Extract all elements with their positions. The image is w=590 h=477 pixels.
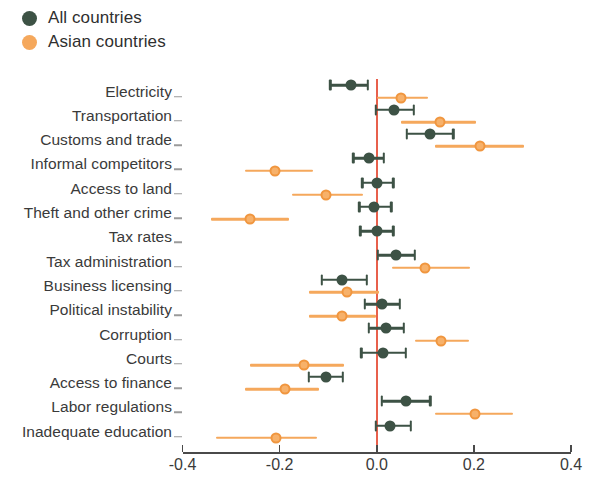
data-point-asian[interactable] xyxy=(270,432,281,443)
confidence-interval-cap xyxy=(366,274,368,285)
data-point-all[interactable] xyxy=(363,153,374,164)
category-label: Business licensing xyxy=(44,277,172,295)
category-tick xyxy=(174,314,182,316)
category-label: Corruption xyxy=(99,326,172,344)
data-point-all[interactable] xyxy=(385,420,396,431)
data-point-asian[interactable] xyxy=(298,360,309,371)
confidence-interval-cap xyxy=(412,104,414,115)
data-point-all[interactable] xyxy=(391,250,402,261)
category-tick xyxy=(174,193,182,195)
category-tick xyxy=(174,363,182,365)
category-tick xyxy=(174,290,182,292)
category-tick xyxy=(174,266,182,268)
x-axis-tick-label: -0.2 xyxy=(266,456,294,474)
data-point-all[interactable] xyxy=(336,274,347,285)
data-point-all[interactable] xyxy=(376,299,387,310)
category-tick xyxy=(174,339,182,341)
data-point-asian[interactable] xyxy=(336,311,347,322)
x-axis-tick xyxy=(182,445,184,452)
category-label: Electricity xyxy=(105,83,172,101)
confidence-interval-cap xyxy=(405,347,407,358)
category-tick xyxy=(174,169,182,171)
x-axis-tick-label: 0.2 xyxy=(463,456,485,474)
category-tick xyxy=(174,242,182,244)
plot-area: ElectricityTransportationCustoms and tra… xyxy=(0,0,590,477)
x-axis-tick-label: -0.4 xyxy=(169,456,197,474)
x-axis-tick xyxy=(279,445,281,452)
confidence-interval-cap xyxy=(342,371,344,382)
category-tick xyxy=(174,412,182,414)
category-label: Political instability xyxy=(49,301,172,319)
x-axis-tick xyxy=(376,445,378,452)
confidence-interval-cap xyxy=(390,201,392,212)
category-label: Inadequate education xyxy=(22,423,172,441)
category-label: Access to land xyxy=(70,180,172,198)
confidence-interval-bar xyxy=(216,437,318,440)
data-point-all[interactable] xyxy=(381,323,392,334)
category-label: Tax administration xyxy=(46,253,172,271)
data-point-all[interactable] xyxy=(378,347,389,358)
confidence-interval-cap xyxy=(413,250,415,261)
zero-reference-line xyxy=(376,79,378,452)
category-tick xyxy=(174,387,182,389)
category-label: Informal competitors xyxy=(31,155,172,173)
data-point-asian[interactable] xyxy=(321,189,332,200)
confidence-interval-cap xyxy=(399,299,401,310)
data-point-asian[interactable] xyxy=(244,214,255,225)
data-point-all[interactable] xyxy=(320,371,331,382)
confidence-interval-cap xyxy=(403,323,405,334)
data-point-all[interactable] xyxy=(425,128,436,139)
data-point-asian[interactable] xyxy=(420,262,431,273)
confidence-interval-cap xyxy=(392,226,394,237)
category-label: Courts xyxy=(126,350,172,368)
category-label: Labor regulations xyxy=(51,398,172,416)
confidence-interval-cap xyxy=(410,420,412,431)
confidence-interval-cap xyxy=(452,128,454,139)
data-point-all[interactable] xyxy=(368,201,379,212)
category-tick xyxy=(174,217,182,219)
category-label: Customs and trade xyxy=(40,131,172,149)
confidence-interval-cap xyxy=(392,177,394,188)
category-tick xyxy=(174,144,182,146)
data-point-asian[interactable] xyxy=(396,92,407,103)
data-point-all[interactable] xyxy=(346,80,357,91)
category-label: Tax rates xyxy=(109,228,172,246)
data-point-all[interactable] xyxy=(371,226,382,237)
category-tick xyxy=(174,436,182,438)
confidence-interval-bar xyxy=(250,364,343,367)
data-point-asian[interactable] xyxy=(435,335,446,346)
confidence-interval-cap xyxy=(367,80,369,91)
chart-root: All countriesAsian countries Electricity… xyxy=(0,0,590,477)
x-axis-line xyxy=(183,452,572,454)
x-axis-tick xyxy=(473,445,475,452)
data-point-all[interactable] xyxy=(400,396,411,407)
data-point-all[interactable] xyxy=(388,104,399,115)
confidence-interval-cap xyxy=(429,396,431,407)
category-tick xyxy=(174,120,182,122)
category-label: Theft and other crime xyxy=(24,204,172,222)
confidence-interval-cap xyxy=(382,153,384,164)
category-label: Transportation xyxy=(72,107,172,125)
x-axis-tick-label: 0.0 xyxy=(366,456,388,474)
data-point-asian[interactable] xyxy=(269,165,280,176)
category-tick xyxy=(174,96,182,98)
data-point-asian[interactable] xyxy=(469,408,480,419)
data-point-asian[interactable] xyxy=(341,287,352,298)
category-label: Access to finance xyxy=(50,374,172,392)
confidence-interval-bar xyxy=(392,267,470,270)
data-point-asian[interactable] xyxy=(280,384,291,395)
x-axis-tick xyxy=(570,445,572,452)
x-axis-tick-label: 0.4 xyxy=(560,456,582,474)
data-point-asian[interactable] xyxy=(434,117,445,128)
data-point-asian[interactable] xyxy=(474,141,485,152)
data-point-all[interactable] xyxy=(371,177,382,188)
